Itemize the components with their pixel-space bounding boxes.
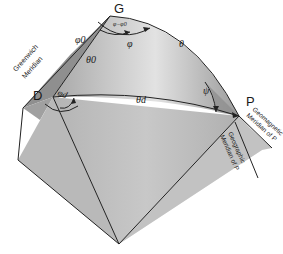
- phi-label: φ: [127, 38, 133, 49]
- phi-minus-phi0-label: φ−φ0: [113, 21, 127, 27]
- theta0-label: θ0: [86, 54, 96, 65]
- theta-label: θ: [179, 38, 184, 49]
- phi0-label: φ0: [75, 34, 86, 45]
- point-D-label: D: [33, 88, 42, 103]
- spherical-geometry-diagram: G D P φ0 φ−φ0 φ θ0 θ φd θd ψ Greenwich M…: [0, 0, 283, 254]
- theta-d-label: θd: [136, 94, 147, 105]
- point-G-label: G: [114, 1, 124, 16]
- point-P-label: P: [246, 94, 255, 109]
- psi-label: ψ: [203, 85, 210, 96]
